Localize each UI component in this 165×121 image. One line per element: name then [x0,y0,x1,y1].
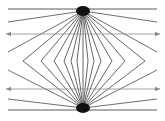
top-hub [76,6,90,16]
top-ray [83,11,157,52]
chevron-line [83,11,112,108]
radiating-lines-illusion [0,0,165,121]
edge-lines [8,9,157,110]
illusion-diagram [0,0,165,121]
chevron-line [83,11,125,108]
bottom-ray [8,99,83,108]
chevron-line [83,11,88,108]
bottom-hub [76,103,90,113]
chevron-line [54,11,83,108]
chevron-lines [23,11,145,108]
top-ray [8,11,83,52]
radiating-rays [8,11,157,108]
bottom-ray [83,99,157,108]
